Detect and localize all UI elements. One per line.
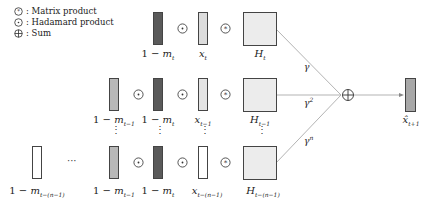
mask-bar-t-1 — [109, 146, 119, 179]
connection-lines — [0, 0, 427, 206]
weight-gamma-middle: γ2 — [304, 96, 313, 108]
label-h-t-n-1: Ht−(n−1) — [246, 185, 280, 198]
hadamard-product-icon — [133, 157, 144, 168]
matrix-product-icon: * — [220, 89, 231, 100]
svg-text:*: * — [224, 91, 228, 99]
weight-gamma-top: γ — [304, 62, 309, 72]
label-x-t: xt — [199, 48, 207, 61]
label-x-t-n-1: xt−(n−1) — [192, 185, 222, 198]
input-bar-t — [198, 12, 208, 45]
hidden-matrix-t-1 — [243, 78, 277, 112]
svg-text:*: * — [224, 25, 228, 33]
hidden-matrix-t-n-1 — [243, 146, 277, 180]
output-bar — [405, 78, 416, 112]
sum-node-icon — [342, 89, 354, 101]
hadamard-product-icon — [133, 89, 144, 100]
vertical-ellipsis: ⋮ — [155, 127, 161, 132]
svg-text:*: * — [224, 159, 228, 167]
label-mask-t: 1 − mt — [141, 48, 174, 61]
hadamard-product-icon — [177, 89, 188, 100]
input-bar-t-n-1 — [198, 146, 208, 179]
matrix-product-icon: * — [220, 157, 231, 168]
input-bar-t-1 — [198, 78, 208, 111]
hadamard-product-icon — [177, 157, 188, 168]
weight-gamma-bottom: γn — [304, 134, 313, 146]
mask-bar-t-n-1 — [32, 146, 42, 179]
mask-bar-t — [153, 146, 163, 179]
mask-bar-t — [153, 78, 163, 111]
hidden-matrix-t — [243, 12, 277, 46]
label-mask-t-1: 1 − mt−1 — [93, 185, 135, 198]
label-mask-t: 1 − mt — [141, 185, 174, 198]
vertical-ellipsis: ⋮ — [111, 127, 117, 132]
mask-bar-t — [153, 12, 163, 45]
mask-bar-t-1 — [109, 78, 119, 111]
label-mask-t-n-1: 1 − mt−(n−1) — [9, 185, 64, 198]
horizontal-ellipsis: ··· — [67, 155, 77, 166]
vertical-ellipsis: ⋮ — [257, 127, 263, 132]
vertical-ellipsis: ⋮ — [200, 127, 206, 132]
label-h-t: Ht — [254, 48, 265, 61]
matrix-product-icon: * — [220, 23, 231, 34]
label-output: x̂t+1 — [403, 114, 420, 127]
hadamard-product-icon — [177, 23, 188, 34]
